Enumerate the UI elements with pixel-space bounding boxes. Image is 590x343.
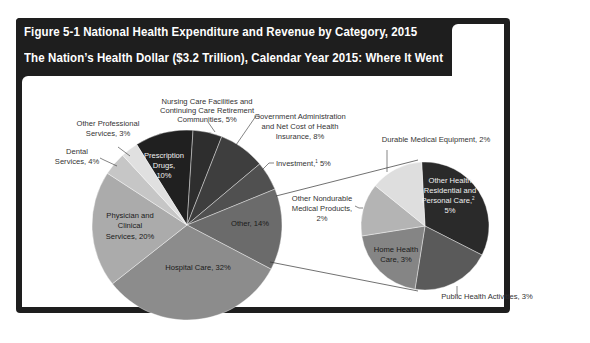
leader-dental [100, 158, 117, 166]
svg-text:Durable Medical Equipment, 2%: Durable Medical Equipment, 2% [382, 135, 491, 144]
svg-text:Other Professional: Other Professional [77, 119, 140, 128]
svg-text:5%: 5% [445, 206, 456, 215]
svg-text:Care, 3%: Care, 3% [380, 255, 412, 264]
svg-text:Insurance, 8%: Insurance, 8% [276, 132, 325, 141]
svg-text:Hospital Care, 32%: Hospital Care, 32% [165, 263, 231, 272]
label-nursing: Nursing Care Facilities and Continuing C… [160, 97, 255, 124]
label-dental: Dental Services, 4% [55, 147, 100, 166]
label-investment: Investment,1 5% [276, 159, 331, 168]
label-home-health: Home Health Care, 3% [374, 245, 418, 264]
svg-text:Nursing Care Facilities and: Nursing Care Facilities and [161, 97, 252, 106]
svg-text:Drugs,: Drugs, [153, 161, 175, 170]
svg-text:Residential and: Residential and [424, 186, 476, 195]
svg-text:Government Administration: Government Administration [254, 112, 346, 121]
label-durable: Durable Medical Equipment, 2% [382, 135, 491, 144]
svg-text:Prescription: Prescription [144, 151, 184, 160]
svg-text:Personal Care,2: Personal Care,2 [421, 196, 475, 205]
label-gov-admin: Government Administration and Net Cost o… [254, 112, 346, 141]
svg-text:Dental: Dental [66, 147, 88, 156]
svg-text:Clinical: Clinical [118, 221, 143, 230]
svg-text:and Net Cost of Health: and Net Cost of Health [262, 122, 339, 131]
svg-text:Other Nondurable: Other Nondurable [292, 194, 352, 203]
label-nondurable: Other Nondurable Medical Products, 2% [292, 194, 352, 223]
svg-text:Public Health Activities, 3%: Public Health Activities, 3% [441, 292, 533, 301]
svg-text:10%: 10% [156, 171, 171, 180]
svg-text:Services, 4%: Services, 4% [55, 157, 100, 166]
svg-text:Services, 20%: Services, 20% [106, 232, 155, 241]
svg-text:Other, 14%: Other, 14% [231, 219, 269, 228]
svg-text:Other Health: Other Health [428, 176, 471, 185]
label-hospital: Hospital Care, 32% [165, 263, 231, 272]
svg-text:2%: 2% [317, 214, 328, 223]
svg-text:Physician and: Physician and [106, 211, 153, 220]
label-public-health: Public Health Activities, 3% [441, 292, 533, 301]
svg-text:Services, 3%: Services, 3% [86, 129, 131, 138]
label-other-prof: Other Professional Services, 3% [77, 119, 140, 138]
pie-charts: Nursing Care Facilities and Continuing C… [0, 0, 590, 343]
svg-text:Investment,1 5%: Investment,1 5% [276, 159, 331, 168]
svg-text:Continuing Care Retirement: Continuing Care Retirement [160, 106, 255, 115]
svg-text:Home Health: Home Health [374, 245, 418, 254]
svg-text:Communities, 5%: Communities, 5% [177, 115, 237, 124]
label-other: Other, 14% [231, 219, 269, 228]
svg-text:Medical Products,: Medical Products, [292, 204, 352, 213]
leader-nondurable [355, 206, 363, 208]
